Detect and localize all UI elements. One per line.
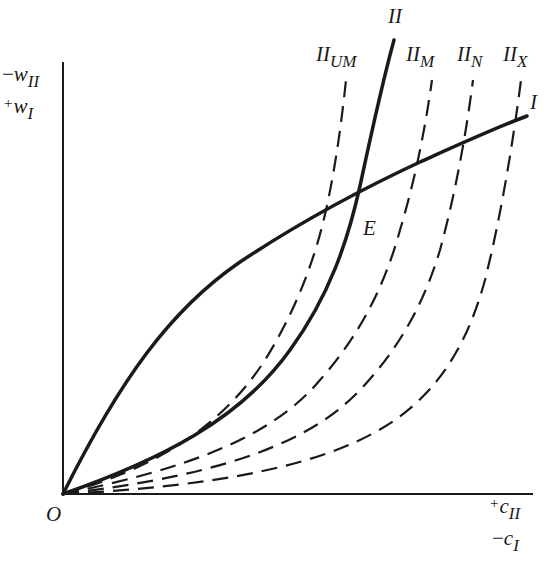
curve-I-label: I bbox=[530, 92, 537, 113]
curve-II-N-label: IIN bbox=[457, 44, 482, 70]
curve-II-UM bbox=[63, 80, 346, 494]
curve-II-label: II bbox=[388, 6, 402, 27]
curve-II bbox=[63, 40, 394, 494]
x-axis-label-line1: +cII bbox=[490, 496, 520, 522]
x-axis-label-line2: −cI bbox=[492, 528, 519, 554]
curve-II-X bbox=[63, 80, 521, 494]
y-axis-label-line1: −wII bbox=[2, 64, 39, 90]
curve-II-X-label: IIX bbox=[503, 44, 527, 70]
origin-label: O bbox=[46, 504, 61, 525]
curve-II-N bbox=[63, 80, 473, 494]
diagram-canvas bbox=[0, 0, 557, 561]
curve-II-M bbox=[63, 80, 432, 494]
point-E-label: E bbox=[363, 218, 376, 239]
curve-II-UM-label: IIUM bbox=[316, 44, 356, 70]
curve-II-M-label: IIM bbox=[406, 44, 434, 70]
y-axis-label-line2: +wI bbox=[4, 96, 33, 122]
